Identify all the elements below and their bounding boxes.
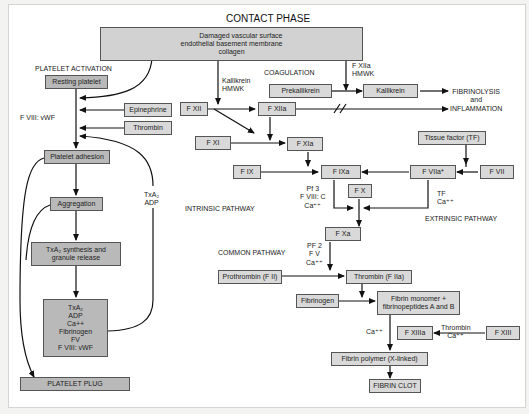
fibrinolysis-text: FIBRINOLYSIS	[450, 88, 502, 96]
fxiia-box: F XIIa	[258, 102, 296, 116]
pf2-text: PF 2	[306, 242, 323, 250]
thrombin-platelet-box: Thrombin	[124, 121, 172, 135]
granule-txa2: TxA₂	[58, 304, 93, 312]
source-line-2: endothelial basement membrane	[181, 40, 283, 48]
fibrinogen-box: Fibrinogen	[296, 294, 339, 308]
coagulation-label: COAGULATION	[264, 69, 314, 77]
extrinsic-pathway-label: EXTRINSIC PATHWAY	[425, 215, 497, 223]
aggregation-box: Aggregation	[50, 197, 103, 211]
tf-ca-text: Ca⁺⁺	[437, 198, 454, 206]
kallikrein-hmwk-label: Kallikrein HMWK	[222, 77, 250, 94]
prothrombinase-cofactors-label: PF 2 F V Ca⁺⁺	[306, 242, 323, 267]
granule-fviii-vwf: F VIII: vWF	[58, 344, 93, 352]
ca-label: Ca⁺⁺	[366, 328, 383, 336]
contact-phase-title: CONTACT PHASE	[226, 13, 310, 24]
resting-platelet-box: Resting platelet	[45, 75, 108, 89]
granule-contents-box: TxA₂ ADP Ca++ Fibrinogen FV F VIII: vWF	[43, 299, 108, 357]
pf3-text: Pf 3	[300, 185, 326, 193]
intrinsic-pathway-label: INTRINSIC PATHWAY	[185, 205, 255, 213]
thrombin-ca-label: Thrombin Ca⁺⁺	[441, 324, 471, 341]
fvii-box: F VII	[480, 165, 514, 179]
fv-text: F V	[306, 250, 323, 258]
tf-ca-label: TF Ca⁺⁺	[437, 190, 454, 207]
prekallikrein-box: Prekallikrein	[269, 84, 332, 98]
inflammation-text: INFLAMMATION	[450, 105, 502, 113]
coagulation-diagram: CONTACT PHASE Damaged vascular surface e…	[0, 0, 529, 414]
ca-text: Ca⁺⁺	[300, 202, 326, 210]
ca-cofactor-text: Ca⁺⁺	[306, 259, 323, 267]
txa2-text: TxA₂	[144, 191, 159, 199]
and-text: and	[450, 96, 502, 104]
fxiiia-box: F XIIIa	[397, 326, 433, 340]
granule-fibrinogen: Fibrinogen	[58, 328, 93, 336]
fxiia-cofactor-text: F XIIa	[352, 62, 374, 70]
epinephrine-box: Epinephrine	[124, 103, 172, 117]
tenase-cofactors-label: Pf 3 F VIII: C Ca⁺⁺	[300, 185, 326, 210]
fixa-box: F IXa	[321, 165, 361, 179]
damaged-vascular-surface-box: Damaged vascular surface endothelial bas…	[100, 27, 363, 61]
tissue-factor-box: Tissue factor (TF)	[418, 131, 486, 145]
fviii-vwf-label: F VIII: vWF	[20, 114, 55, 122]
fxiii-box: F XIII	[486, 326, 520, 340]
platelet-activation-label: PLATELET ACTIVATION	[35, 65, 112, 73]
fibrin-monomer-box: Fibrin monomer + fibrinopeptides A and B	[377, 291, 460, 315]
fx-box: F X	[348, 184, 372, 198]
hmwk-text: HMWK	[222, 85, 250, 93]
source-line-3: collagen	[181, 48, 283, 56]
fviia-box: F VIIa*	[410, 165, 456, 179]
fxiia-hmwk-label: F XIIa HMWK	[352, 62, 374, 79]
synthesis-line-2: granule release	[46, 254, 106, 262]
platelet-plug-box: PLATELET PLUG	[20, 377, 130, 391]
fix-box: F IX	[233, 165, 261, 179]
thrombin-box: Thrombin (F IIa)	[346, 270, 412, 284]
txa2-adp-label: TxA₂ ADP	[144, 191, 159, 208]
fxi-box: F XI	[195, 136, 231, 150]
source-line-1: Damaged vascular surface	[181, 32, 283, 40]
fxia-box: F XIa	[287, 137, 323, 151]
hmwk-cofactor-text: HMWK	[352, 70, 374, 78]
fibrinolysis-inflammation-label: FIBRINOLYSIS and INFLAMMATION	[450, 88, 502, 113]
kallikrein-box: Kallikrein	[363, 84, 418, 98]
granule-fv: FV	[58, 336, 93, 344]
fviii-c-text: F VIII: C	[300, 193, 326, 201]
granule-adp: ADP	[58, 312, 93, 320]
thrombin-ca-text: Ca⁺⁺	[441, 332, 471, 340]
txa2-synthesis-box: TxA₂ synthesis and granule release	[31, 242, 121, 266]
fxii-box: F XII	[180, 102, 208, 116]
tf-text: TF	[437, 190, 454, 198]
prothrombin-box: Prothrombin (F II)	[218, 270, 282, 284]
thrombin-text: Thrombin	[441, 324, 471, 332]
fibrin-polymer-box: Fibrin polymer (X-linked)	[331, 352, 428, 366]
adp-text: ADP	[144, 199, 159, 207]
platelet-adhesion-box: Platelet adhesion	[44, 150, 110, 164]
common-pathway-label: COMMON PATHWAY	[218, 249, 285, 257]
fxa-box: F Xa	[325, 227, 361, 241]
synthesis-line-1: TxA₂ synthesis and	[46, 246, 106, 254]
kallikrein-text: Kallikrein	[222, 77, 250, 85]
fibrin-monomer-line-1: Fibrin monomer +	[383, 295, 455, 303]
granule-ca: Ca++	[58, 320, 93, 328]
fibrin-clot-box: FIBRIN CLOT	[369, 379, 421, 393]
fibrin-monomer-line-2: fibrinopeptides A and B	[383, 303, 455, 311]
